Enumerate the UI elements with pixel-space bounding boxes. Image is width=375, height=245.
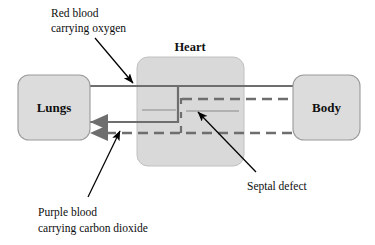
heart-label: Heart [174, 40, 206, 54]
lungs-label: Lungs [37, 100, 72, 115]
body-label: Body [312, 100, 341, 115]
circulation-septal-defect-diagram: Lungs Body Heart Red blood carrying oxyg… [0, 0, 375, 245]
diagram-canvas: Lungs Body Heart Red blood carrying oxyg… [0, 0, 375, 245]
arrowhead-left-dashed [90, 125, 108, 141]
annotation-red-blood-line2: carrying oxygen [51, 22, 126, 35]
body-box: Body [293, 75, 360, 140]
annotation-septal-defect-line1: Septal defect [247, 180, 308, 193]
annotation-purple-blood-line1: Purple blood [38, 206, 97, 219]
annotation-purple-blood: Purple blood carrying carbon dioxide [38, 206, 148, 235]
pointer-purple-blood [88, 131, 120, 197]
annotation-purple-blood-line2: carrying carbon dioxide [38, 222, 148, 235]
annotation-red-blood-line1: Red blood [51, 7, 99, 19]
pointer-red-blood [95, 38, 133, 83]
annotation-red-blood: Red blood carrying oxygen [51, 7, 126, 35]
annotation-septal-defect: Septal defect [247, 180, 308, 193]
lungs-box: Lungs [18, 75, 90, 140]
